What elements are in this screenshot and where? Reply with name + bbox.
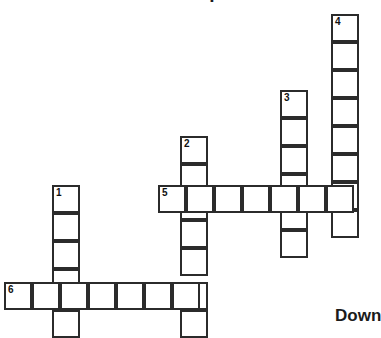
cell-across6-3[interactable] (88, 282, 116, 310)
cell-c2-r11[interactable] (52, 310, 80, 338)
cell-c7-r9[interactable] (180, 248, 208, 276)
cell-across6-1[interactable] (32, 282, 60, 310)
cell-c12-r3[interactable] (331, 98, 359, 126)
cell-c12-r1[interactable] (331, 42, 359, 70)
cell-across6-0[interactable]: 6 (4, 282, 32, 310)
cell-number: 6 (8, 284, 14, 295)
cell-c7-r11[interactable] (180, 310, 208, 338)
cell-across6-6[interactable] (172, 282, 200, 310)
cell-c12-r4[interactable] (331, 126, 359, 154)
cell-c10-r3[interactable]: 3 (280, 90, 308, 118)
cell-c7-r5[interactable]: 2 (180, 136, 208, 164)
cell-c10-r4[interactable] (280, 118, 308, 146)
cell-number: 1 (56, 187, 62, 198)
cell-across6-2[interactable] (60, 282, 88, 310)
cell-c12-r0[interactable]: 4 (331, 14, 359, 42)
cell-c10-r5[interactable] (280, 146, 308, 174)
cell-across5-2[interactable] (214, 185, 242, 213)
cell-c2-r8[interactable] (52, 213, 80, 241)
cell-across6-5[interactable] (144, 282, 172, 310)
cell-c12-r2[interactable] (331, 70, 359, 98)
cell-across5-3[interactable] (242, 185, 270, 213)
cell-number: 4 (335, 16, 341, 27)
cell-across5-5[interactable] (298, 185, 326, 213)
cell-across5-6[interactable] (326, 185, 354, 213)
cell-c2-r7[interactable]: 1 (52, 185, 80, 213)
cell-across5-1[interactable] (186, 185, 214, 213)
cell-c10-r8[interactable] (280, 230, 308, 258)
cell-number: 5 (162, 187, 168, 198)
cell-across5-4[interactable] (270, 185, 298, 213)
cell-number: 3 (284, 92, 290, 103)
cell-c12-r5[interactable] (331, 154, 359, 182)
cell-c7-r8[interactable] (180, 220, 208, 248)
down-clues-heading: Down (335, 306, 381, 326)
cell-across5-0[interactable]: 5 (158, 185, 186, 213)
cell-c2-r9[interactable] (52, 241, 80, 269)
cell-across6-4[interactable] (116, 282, 144, 310)
cell-c12-r7[interactable] (331, 210, 359, 238)
cell-number: 2 (184, 138, 190, 149)
